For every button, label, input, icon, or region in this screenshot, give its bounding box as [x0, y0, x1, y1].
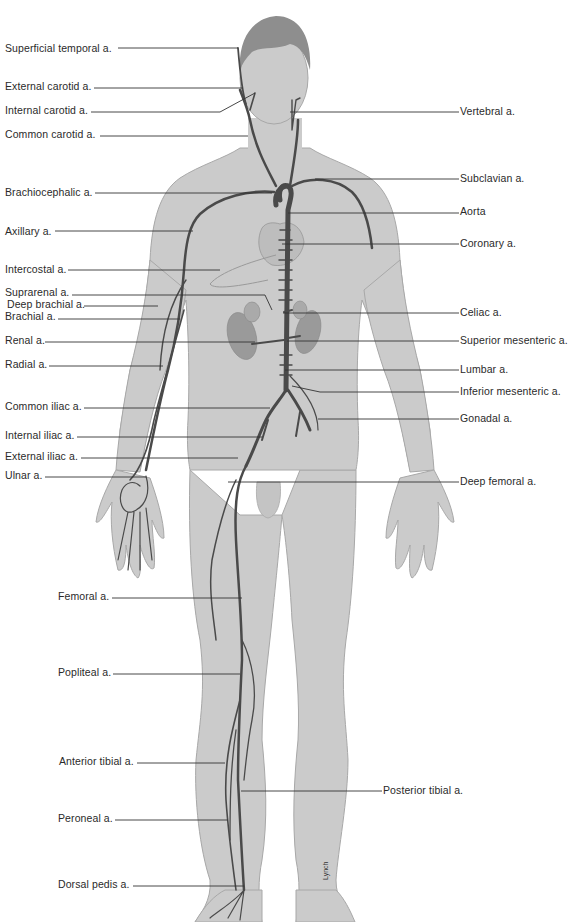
left-hand [386, 470, 454, 578]
leader-internal-carotid [91, 93, 255, 112]
label-peroneal: Peroneal a. [58, 812, 113, 824]
label-internal-iliac: Internal iliac a. [5, 429, 74, 441]
label-vertebral: Vertebral a. [460, 105, 515, 117]
label-suprarenal: Suprarenal a. [5, 286, 69, 298]
label-posterior-tibial: Posterior tibial a. [383, 784, 463, 796]
label-gonadal: Gonadal a. [460, 412, 512, 424]
label-deep-brachial: Deep brachial a. [7, 298, 85, 310]
artist-signature: Lynch [322, 862, 329, 880]
label-external-carotid: External carotid a. [5, 80, 92, 92]
label-inferior-mesenteric: Inferior mesenteric a. [460, 385, 561, 397]
label-radial: Radial a. [5, 358, 47, 370]
label-superficial-temporal: Superficial temporal a. [5, 42, 112, 54]
label-femoral: Femoral a. [58, 590, 109, 602]
label-superior-mesenteric: Superior mesenteric a. [460, 334, 568, 346]
label-celiac: Celiac a. [460, 306, 502, 318]
label-internal-carotid: Internal carotid a. [5, 104, 88, 116]
label-subclavian: Subclavian a. [460, 172, 524, 184]
right-hand [96, 470, 164, 578]
label-aorta: Aorta [460, 205, 486, 217]
left-foot [296, 890, 355, 922]
label-popliteal: Popliteal a. [58, 666, 111, 678]
genital-region [256, 482, 280, 518]
label-anterior-tibial: Anterior tibial a. [59, 755, 134, 767]
label-common-iliac: Common iliac a. [5, 400, 82, 412]
left-arm [364, 260, 434, 472]
label-renal: Renal a. [5, 334, 45, 346]
label-brachiocephalic: Brachiocephalic a. [5, 186, 93, 198]
label-ulnar: Ulnar a. [5, 469, 43, 481]
label-deep-femoral: Deep femoral a. [460, 475, 536, 487]
label-brachial: Brachial a. [5, 310, 56, 322]
label-lumbar: Lumbar a. [460, 363, 508, 375]
label-common-carotid: Common carotid a. [5, 128, 95, 140]
left-adrenal [293, 301, 307, 319]
label-coronary: Coronary a. [460, 237, 516, 249]
label-external-iliac: External iliac a. [5, 450, 78, 462]
right-adrenal [244, 302, 260, 322]
label-dorsal-pedis: Dorsal pedis a. [58, 878, 130, 890]
label-intercostal: Intercostal a. [5, 263, 67, 275]
left-leg [282, 470, 356, 922]
label-axillary: Axillary a. [5, 225, 52, 237]
